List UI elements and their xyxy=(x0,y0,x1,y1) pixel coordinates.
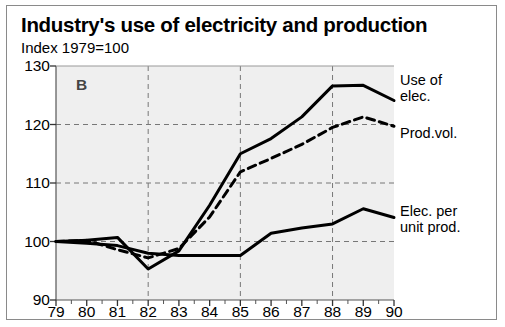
legend-label-line2: elec. xyxy=(400,88,442,104)
y-tick-label: 130 xyxy=(10,57,50,75)
y-tick-label: 90 xyxy=(10,291,50,309)
x-tick-label: 90 xyxy=(385,303,402,321)
panel-marker: B xyxy=(76,76,87,94)
legend-label-line2: unit prod. xyxy=(400,219,460,235)
series-line xyxy=(56,117,394,258)
legend-label-line1: Elec. per xyxy=(400,203,460,219)
x-tick-label: 84 xyxy=(201,303,218,321)
page-title: Industry's use of electricity and produc… xyxy=(21,13,427,37)
series-line xyxy=(56,209,394,256)
legend-label-line1: Prod.vol. xyxy=(400,125,457,141)
x-tick-label: 83 xyxy=(170,303,187,321)
legend-item-prod-vol: Prod.vol. xyxy=(400,125,457,141)
chart-subtitle: Index 1979=100 xyxy=(21,39,129,56)
x-tick-label: 79 xyxy=(47,303,64,321)
y-tick-label: 110 xyxy=(10,174,50,192)
plot-area xyxy=(56,66,394,300)
y-axis-labels: 90100110120130 xyxy=(8,66,50,300)
y-tick-label: 120 xyxy=(10,116,50,134)
x-tick-label: 87 xyxy=(293,303,310,321)
x-tick-label: 80 xyxy=(78,303,95,321)
series-line xyxy=(56,85,394,269)
x-axis-labels: 798081828384858687888990 xyxy=(56,303,394,325)
x-tick-label: 86 xyxy=(262,303,279,321)
x-tick-label: 88 xyxy=(324,303,341,321)
y-tick-label: 100 xyxy=(10,233,50,251)
x-tick-label: 82 xyxy=(140,303,157,321)
legend-item-use-of-elec: Use of elec. xyxy=(400,72,442,104)
x-tick-label: 81 xyxy=(109,303,126,321)
chart-canvas xyxy=(56,66,394,300)
legend-item-elec-per-unit-prod: Elec. per unit prod. xyxy=(400,203,460,235)
legend-label-line1: Use of xyxy=(400,72,442,88)
x-tick-label: 89 xyxy=(355,303,372,321)
x-tick-label: 85 xyxy=(232,303,249,321)
